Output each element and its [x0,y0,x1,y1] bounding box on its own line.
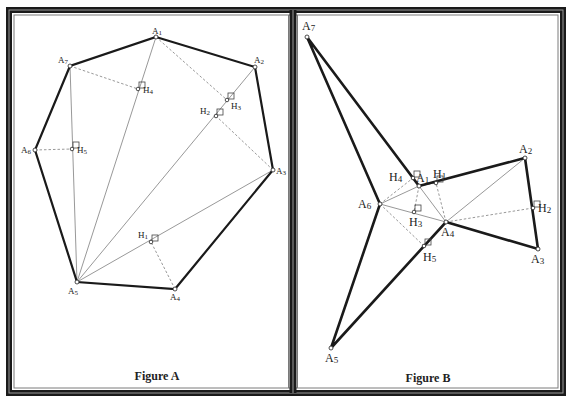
vertex-label-a1: A1 [152,26,163,37]
altitude-A4-H1 [436,183,446,222]
foot-point-h3 [412,210,416,214]
foot-label-h1: H1 [433,167,446,181]
right-angle-marker-h3 [415,205,421,211]
vertex-point-a4 [444,220,448,224]
foot-point-h3 [225,98,229,102]
diagonal-A4-A1 [419,186,446,222]
foot-label-h2: H2 [200,106,211,117]
vertex-point-a6 [378,202,382,206]
vertex-label-a3: A3 [531,252,545,266]
foot-label-h3: H3 [231,101,242,112]
foot-point-h4 [411,176,415,180]
foot-label-h1: H1 [138,230,149,241]
figure-caption: Figure A [135,369,180,383]
figure-caption: Figure B [406,371,451,385]
foot-point-h5 [422,244,426,248]
foot-label-h3: H3 [409,215,423,229]
figure-b: A1A2A3A4A5A6A7H1H2H3H4H5Figure B [302,19,551,385]
foot-point-h2 [531,206,535,210]
foot-point-h2 [214,114,218,118]
vertex-label-a5: A5 [325,351,339,365]
outer-frame [9,10,563,393]
vertex-point-a3 [536,247,540,251]
vertex-label-a3: A3 [276,166,287,177]
vertex-label-a6: A6 [21,145,32,156]
figure-a: A1A2A3A4A5A6A7H1H2H3H4H5Figure A [21,26,287,383]
altitude-A7-H4 [70,66,138,89]
vertex-point-a6 [33,148,37,152]
vertex-point-a2 [523,156,527,160]
foot-point-h1 [149,240,153,244]
altitude-A4-H2 [446,208,533,222]
vertex-point-a2 [253,65,257,69]
diagonal-A5-A1 [77,37,156,282]
diagonal-A5-A3 [77,170,273,282]
vertex-label-a2: A2 [254,55,265,66]
altitude-A4-H1 [151,242,175,289]
vertex-label-a6: A6 [358,197,372,211]
foot-label-h4: H4 [389,170,403,184]
foot-label-h2: H2 [538,201,551,215]
vertex-point-a7 [68,64,72,68]
foot-point-h4 [136,87,140,91]
foot-point-h1 [434,181,438,185]
vertex-label-a4: A4 [170,292,181,303]
vertex-label-a5: A5 [68,286,79,297]
vertex-label-a7: A7 [58,55,69,66]
heptagon-outline [307,37,538,348]
foot-label-h5: H5 [423,250,437,264]
vertex-point-a5 [75,280,79,284]
vertex-point-a4 [173,287,177,291]
vertex-label-a2: A2 [519,142,532,156]
vertex-label-a7: A7 [302,19,316,33]
altitude-A6-H5 [35,149,72,150]
foot-point-h5 [70,147,74,151]
vertex-point-a3 [271,168,275,172]
diagonal-A5-A7 [70,66,77,282]
vertex-point-a5 [329,346,333,350]
foot-label-h5: H5 [77,145,88,156]
foot-label-h4: H4 [143,85,154,96]
vertex-label-a4: A4 [441,225,455,239]
altitude-A1-H3 [156,37,227,100]
diagram-canvas: A1A2A3A4A5A6A7H1H2H3H4H5Figure A A1A2A3A… [0,0,575,403]
vertex-label-a1: A1 [416,171,429,185]
vertex-point-a7 [305,35,309,39]
